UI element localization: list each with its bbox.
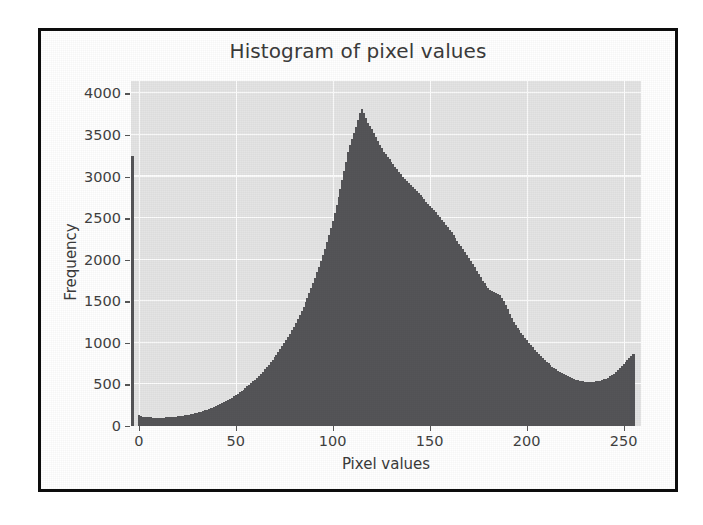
y-tick-mark — [125, 93, 130, 94]
y-tick-mark — [125, 135, 130, 136]
plot-area — [131, 81, 641, 426]
x-tick-mark — [333, 426, 334, 431]
y-tick-mark — [125, 426, 130, 427]
x-tick-mark — [236, 426, 237, 431]
x-tick-label: 50 — [206, 433, 266, 449]
histogram-bar — [131, 156, 134, 426]
x-tick-mark — [527, 426, 528, 431]
x-tick-label: 150 — [400, 433, 460, 449]
x-tick-label: 100 — [303, 433, 363, 449]
x-tick-label: 200 — [497, 433, 557, 449]
y-tick-mark — [125, 301, 130, 302]
y-tick-label: 3500 — [61, 127, 121, 143]
histogram-bar — [632, 354, 635, 426]
x-tick-mark — [139, 426, 140, 431]
y-tick-label: 4000 — [61, 85, 121, 101]
figure-canvas: Histogram of pixel values Frequency Pixe… — [41, 31, 675, 489]
x-tick-label: 250 — [594, 433, 654, 449]
x-tick-label: 0 — [109, 433, 169, 449]
y-tick-label: 2500 — [61, 210, 121, 226]
x-axis-label: Pixel values — [131, 455, 641, 473]
y-tick-label: 1500 — [61, 293, 121, 309]
y-tick-label: 0 — [61, 418, 121, 434]
page-title: Histogram of pixel values — [41, 39, 675, 63]
y-tick-label: 500 — [61, 376, 121, 392]
histogram-bars — [131, 81, 641, 426]
figure-frame: Histogram of pixel values Frequency Pixe… — [38, 28, 678, 492]
y-tick-label: 1000 — [61, 335, 121, 351]
y-tick-label: 2000 — [61, 252, 121, 268]
y-tick-mark — [125, 260, 130, 261]
y-tick-mark — [125, 177, 130, 178]
y-tick-label: 3000 — [61, 169, 121, 185]
x-tick-mark — [430, 426, 431, 431]
y-tick-mark — [125, 384, 130, 385]
y-tick-mark — [125, 218, 130, 219]
y-tick-mark — [125, 343, 130, 344]
figure-root: Histogram of pixel values Frequency Pixe… — [0, 0, 703, 525]
x-tick-mark — [624, 426, 625, 431]
